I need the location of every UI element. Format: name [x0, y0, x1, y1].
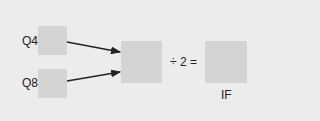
arrow-q4 — [67, 42, 120, 52]
output-label-if: IF — [221, 88, 232, 102]
arrow-q8 — [67, 72, 120, 81]
divide-operator: ÷ 2 = — [170, 55, 197, 69]
sum-box — [121, 41, 162, 83]
output-box-if — [205, 41, 247, 83]
